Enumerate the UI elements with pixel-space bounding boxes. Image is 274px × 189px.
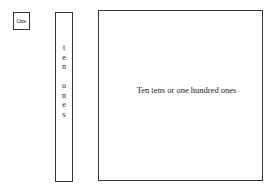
letter: n — [56, 91, 72, 101]
one-block: One — [13, 12, 30, 30]
letter: o — [56, 81, 72, 91]
letter: t — [56, 43, 72, 53]
hundred-block: Ten tens or one hundred ones — [98, 10, 263, 181]
letter: e — [56, 53, 72, 63]
letter: s — [56, 110, 72, 120]
letter-gap — [56, 72, 72, 82]
letter: n — [56, 62, 72, 72]
ten-block: t e n o n e s — [55, 12, 73, 182]
ten-label: t e n o n e s — [56, 43, 72, 119]
one-label: One — [17, 18, 27, 24]
hundred-label: Ten tens or one hundred ones — [99, 85, 262, 95]
letter: e — [56, 100, 72, 110]
